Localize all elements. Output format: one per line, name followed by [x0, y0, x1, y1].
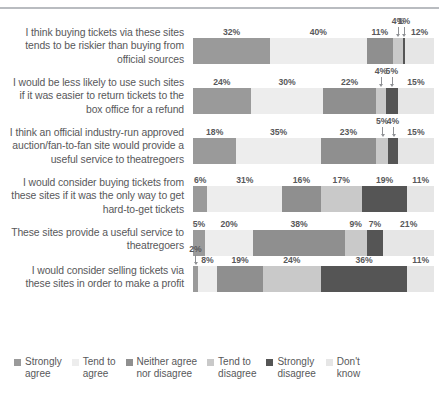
- callout-arrow-icon: [392, 134, 396, 137]
- bar-segment: [193, 138, 236, 164]
- stacked-bar: [193, 138, 434, 164]
- segment-value: 36%: [356, 255, 373, 265]
- legend-swatch-icon: [14, 359, 21, 366]
- segment-value: 6%: [194, 175, 206, 185]
- legend-item[interactable]: Tend to agree: [72, 356, 116, 381]
- row-label: I think buying tickets via these sites t…: [8, 26, 184, 66]
- segment-value: 16%: [293, 175, 310, 185]
- bar-segment: [217, 266, 263, 292]
- segment-value: 21%: [400, 219, 417, 229]
- segment-value: 15%: [407, 127, 424, 137]
- legend-item[interactable]: Tend to disagree: [207, 356, 256, 381]
- stacked-bar: [193, 266, 434, 292]
- bar-segment: [193, 38, 270, 64]
- segment-value: 23%: [340, 127, 357, 137]
- bar-area: 32%40%11%4%1%12%: [193, 18, 434, 68]
- top-divider: [0, 7, 439, 9]
- chart-row: These sites provide a useful service to …: [0, 216, 439, 252]
- bar-segment: [270, 38, 366, 64]
- bar-segment: [282, 186, 321, 212]
- chart-row: I would consider selling tickets via the…: [0, 252, 439, 288]
- legend-item[interactable]: Neither agree nor disagree: [126, 356, 198, 381]
- segment-value: 9%: [349, 219, 361, 229]
- bar-segment: [193, 186, 207, 212]
- stacked-bar: [193, 186, 434, 212]
- stacked-bar-chart: I think buying tickets via these sites t…: [0, 0, 439, 400]
- segment-value: 38%: [290, 219, 307, 229]
- segment-value: 31%: [236, 175, 253, 185]
- segment-value: 12%: [411, 27, 428, 37]
- row-label: I would consider selling tickets via the…: [8, 264, 184, 291]
- callout-arrow-icon: [402, 34, 406, 37]
- segment-value: 19%: [376, 175, 393, 185]
- legend-label: Tend to disagree: [218, 356, 256, 381]
- segment-value: 32%: [223, 27, 240, 37]
- legend-label: Don't know: [337, 356, 360, 381]
- bar-area: 6%31%16%17%19%11%: [193, 168, 434, 216]
- segment-value: 5%: [193, 219, 205, 229]
- segment-value: 17%: [333, 175, 350, 185]
- segment-value-callout: 2%: [189, 244, 201, 254]
- bar-segment: [386, 88, 398, 114]
- callout-arrow-icon: [396, 34, 400, 37]
- legend-swatch-icon: [126, 359, 133, 366]
- bar-area: 18%35%23%5%4%15%: [193, 118, 434, 168]
- legend-item[interactable]: Strongly disagree: [266, 356, 315, 381]
- legend-label: Neither agree nor disagree: [137, 356, 198, 381]
- segment-value: 8%: [201, 255, 213, 265]
- stacked-bar: [193, 38, 434, 64]
- legend-label: Strongly agree: [25, 356, 62, 381]
- chart-row: I would consider buying tickets from the…: [0, 168, 439, 216]
- bar-segment: [376, 138, 388, 164]
- callout-arrow-icon: [381, 134, 385, 137]
- bar-segment: [207, 186, 282, 212]
- bar-segment: [393, 38, 403, 64]
- bar-area: 24%30%22%4%5%15%: [193, 68, 434, 118]
- legend-label: Strongly disagree: [277, 356, 315, 381]
- segment-value: 19%: [231, 255, 248, 265]
- callout-arrow-icon: [379, 84, 383, 87]
- segment-value: 11%: [412, 255, 429, 265]
- bar-segment: [407, 266, 434, 292]
- bar-segment: [321, 138, 376, 164]
- segment-value: 35%: [270, 127, 287, 137]
- legend-swatch-icon: [266, 359, 273, 366]
- bar-segment: [405, 38, 434, 64]
- bar-segment: [251, 88, 323, 114]
- segment-value: 11%: [371, 27, 388, 37]
- bar-segment: [367, 38, 394, 64]
- segment-value: 7%: [369, 219, 381, 229]
- bar-segment: [323, 88, 376, 114]
- segment-value: 18%: [206, 127, 223, 137]
- bar-segment: [398, 88, 434, 114]
- bar-segment: [388, 138, 398, 164]
- legend-label: Tend to agree: [83, 356, 116, 381]
- segment-value: 11%: [412, 175, 429, 185]
- bar-segment: [236, 138, 320, 164]
- segment-value: 20%: [221, 219, 238, 229]
- chart-legend: Strongly agreeTend to agreeNeither agree…: [0, 356, 439, 381]
- chart-row: I think an official industry-run approve…: [0, 118, 439, 168]
- bar-segment: [198, 266, 217, 292]
- row-label: I would be less likely to use such sites…: [8, 76, 184, 116]
- bar-segment: [193, 88, 251, 114]
- legend-swatch-icon: [72, 359, 79, 366]
- bar-segment: [321, 186, 362, 212]
- bar-segment: [376, 88, 386, 114]
- bar-area: 5%20%38%9%7%21%: [193, 216, 434, 252]
- segment-value: 30%: [278, 77, 295, 87]
- bar-segment: [407, 186, 434, 212]
- callout-arrow-icon: [194, 262, 198, 265]
- segment-value: 40%: [310, 27, 327, 37]
- segment-value-callout: 4%: [387, 116, 399, 126]
- stacked-bar: [193, 88, 434, 114]
- bar-segment: [398, 138, 434, 164]
- legend-item[interactable]: Don't know: [326, 356, 360, 381]
- segment-value: 24%: [283, 255, 300, 265]
- segment-value: 24%: [213, 77, 230, 87]
- bar-segment: [263, 266, 321, 292]
- bar-area: 2%8%19%24%36%11%: [193, 252, 434, 288]
- segment-value: 22%: [341, 77, 358, 87]
- legend-item[interactable]: Strongly agree: [14, 356, 62, 381]
- chart-rows: I think buying tickets via these sites t…: [0, 18, 439, 288]
